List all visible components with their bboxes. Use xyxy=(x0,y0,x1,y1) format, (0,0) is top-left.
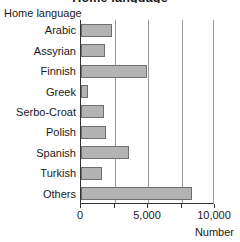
x-axis-minor-tick xyxy=(147,204,148,208)
plot-area xyxy=(80,20,214,204)
bar xyxy=(81,65,147,78)
bar-row xyxy=(81,143,213,163)
bar xyxy=(81,44,105,57)
category-label: Arabic xyxy=(0,24,76,36)
x-axis-tick xyxy=(214,204,215,208)
bar-row xyxy=(81,163,213,183)
bar xyxy=(81,187,192,200)
clipped-chart-title: Home language xyxy=(0,0,240,3)
category-label: Spanish xyxy=(0,147,76,159)
x-axis-tick-label: 5,000 xyxy=(133,209,161,221)
x-axis-title: Number xyxy=(195,226,234,238)
bar-row xyxy=(81,81,213,101)
bar-row xyxy=(81,184,213,204)
bar-series xyxy=(81,20,213,203)
category-label: Polish xyxy=(0,126,76,138)
y-axis-group-label: Home language xyxy=(4,7,82,19)
bar-row xyxy=(81,122,213,142)
bar xyxy=(81,105,104,118)
bar xyxy=(81,24,112,37)
x-axis-tick-label: 10,000 xyxy=(197,209,231,221)
category-label: Turkish xyxy=(0,167,76,179)
x-axis-minor-tick xyxy=(181,204,182,208)
bar xyxy=(81,126,106,139)
category-label: Assyrian xyxy=(0,45,76,57)
x-axis-tick-label: 0 xyxy=(77,209,83,221)
bar-row xyxy=(81,61,213,81)
category-axis-labels: ArabicAssyrianFinnishGreekSerbo-CroatPol… xyxy=(0,20,76,204)
category-label: Serbo-Croat xyxy=(0,106,76,118)
bar xyxy=(81,146,129,159)
x-axis-tick xyxy=(80,204,81,208)
bar xyxy=(81,85,88,98)
bar-row xyxy=(81,40,213,60)
bar-row xyxy=(81,20,213,40)
bar-row xyxy=(81,102,213,122)
category-label: Others xyxy=(0,188,76,200)
category-label: Greek xyxy=(0,86,76,98)
chart-screenshot: Home language Home language ArabicAssyri… xyxy=(0,0,240,242)
bar xyxy=(81,167,102,180)
x-axis-minor-tick xyxy=(114,204,115,208)
category-label: Finnish xyxy=(0,65,76,77)
